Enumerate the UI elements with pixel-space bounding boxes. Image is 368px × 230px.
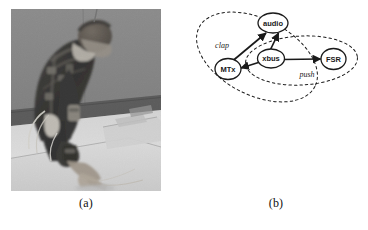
figure-root: (a) — [0, 0, 368, 230]
group-label-clap: clap — [215, 41, 229, 50]
node-audio[interactable]: audio — [258, 13, 288, 33]
node-fsr-label: FSR — [326, 55, 342, 64]
edge-xbus-to-audio — [270, 33, 279, 51]
graph-nodes: audio MTx xbus FSR — [215, 13, 346, 80]
node-mtx[interactable]: MTx — [215, 59, 241, 80]
edge-xbus-to-mtx — [241, 62, 260, 68]
node-audio-label: audio — [263, 19, 283, 28]
motion-capture-photo — [11, 9, 161, 191]
group-ellipse-clap — [182, 8, 332, 120]
edge-xbus-to-fsr — [283, 59, 321, 60]
group-label-push: push — [298, 70, 314, 79]
node-xbus-label: xbus — [262, 54, 280, 63]
node-fsr[interactable]: FSR — [321, 49, 346, 70]
panel-b: audio MTx xbus FSR clap push — [184, 0, 368, 230]
caption-b: (b) — [184, 196, 368, 211]
node-mtx-label: MTx — [221, 65, 237, 74]
panel-a: (a) — [0, 0, 184, 230]
sensor-graph-diagram: audio MTx xbus FSR clap push — [162, 8, 368, 180]
photo-image — [11, 9, 161, 191]
node-xbus[interactable]: xbus — [258, 49, 285, 68]
caption-a: (a) — [0, 196, 172, 211]
